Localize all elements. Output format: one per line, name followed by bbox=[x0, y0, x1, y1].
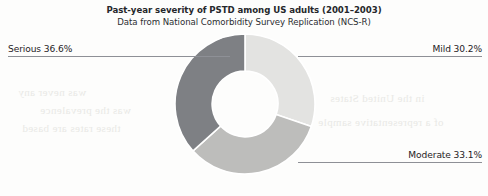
callout-moderate-label: Moderate 33.1% bbox=[298, 150, 482, 160]
page-bleed-text: was the prevalence bbox=[40, 104, 131, 116]
callout-serious: Serious 36.6% bbox=[8, 44, 230, 57]
page-bleed-text: of a representative sample bbox=[318, 116, 444, 128]
callout-mild: Mild 30.2% bbox=[298, 44, 482, 57]
callout-mild-label: Mild 30.2% bbox=[298, 44, 482, 54]
page-bleed-text: was never any bbox=[18, 86, 86, 98]
callout-moderate-leader-line bbox=[298, 162, 482, 163]
figure-canvas: was never any was the prevalence these r… bbox=[0, 0, 488, 196]
callout-mild-leader-line bbox=[298, 56, 482, 57]
callout-serious-label: Serious 36.6% bbox=[8, 44, 230, 54]
callout-moderate: Moderate 33.1% bbox=[298, 150, 482, 163]
callout-serious-leader-line bbox=[8, 56, 230, 57]
page-bleed-text: these rates are based bbox=[22, 122, 121, 134]
page-bleed-text: in the United States bbox=[330, 92, 424, 104]
chart-title-block: Past-year severity of PSTD among US adul… bbox=[0, 4, 488, 28]
page-title: Past-year severity of PSTD among US adul… bbox=[0, 4, 488, 16]
page-subtitle: Data from National Comorbidity Survey Re… bbox=[0, 16, 488, 28]
